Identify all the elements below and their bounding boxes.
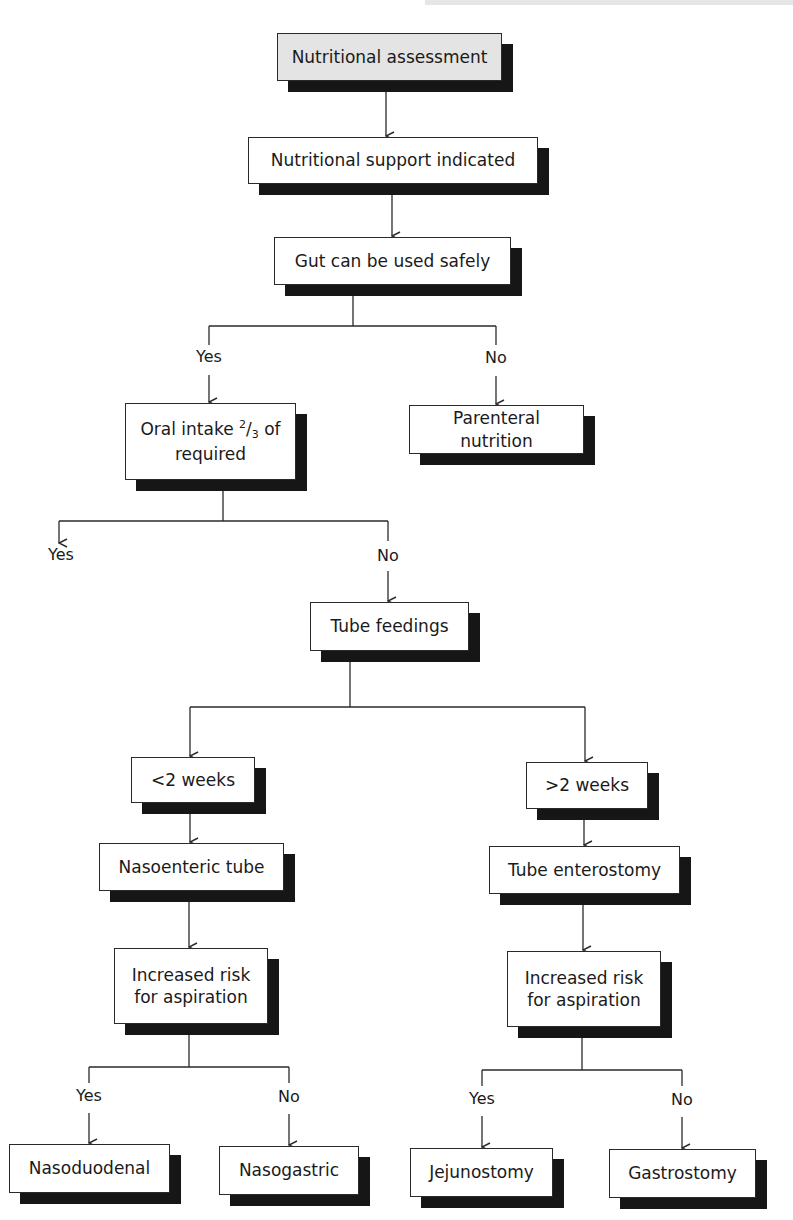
node-nasoenteric-tube: Nasoenteric tube [99,843,284,891]
node-jejunostomy: Jejunostomy [410,1148,553,1197]
label-gut-no: No [485,348,507,367]
node-more-than-2-weeks: >2 weeks [526,762,648,809]
node-nasoduodenal: Nasoduodenal [9,1144,170,1193]
node-gut-safe: Gut can be used safely [274,237,511,285]
label-riskr-no: No [671,1090,693,1109]
node-nutritional-support: Nutritional support indicated [248,137,538,184]
node-oral-intake: Oral intake 2/3 of required [125,403,296,480]
node-increased-risk-left: Increased risk for aspiration [114,948,268,1024]
node-parenteral-nutrition: Parenteral nutrition [409,405,584,454]
label-oral-yes: Yes [48,545,74,564]
node-tube-enterostomy: Tube enterostomy [489,846,680,894]
oral-intake-text: Oral intake 2/3 of required [125,403,296,480]
node-gastrostomy: Gastrostomy [609,1149,756,1198]
node-nutritional-assessment: Nutritional assessment [277,33,502,81]
label-riskl-no: No [278,1087,300,1106]
label-oral-no: No [377,546,399,565]
node-less-than-2-weeks: <2 weeks [131,757,255,803]
node-tube-feedings: Tube feedings [310,602,469,651]
node-increased-risk-right: Increased risk for aspiration [507,951,661,1027]
label-riskl-yes: Yes [76,1086,102,1105]
node-nasogastric: Nasogastric [219,1146,359,1195]
label-gut-yes: Yes [196,347,222,366]
label-riskr-yes: Yes [469,1089,495,1108]
